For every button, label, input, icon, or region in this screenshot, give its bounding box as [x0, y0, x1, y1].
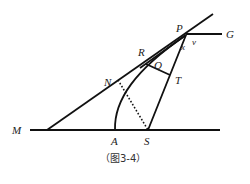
geometry-diagram: M A S N R Q T P G v x （图3-4） — [0, 0, 250, 184]
label-s: S — [144, 135, 150, 147]
figure-caption: （图3-4） — [100, 153, 146, 164]
tangent-line — [47, 14, 213, 130]
label-m: M — [11, 124, 22, 136]
label-g: G — [226, 28, 234, 40]
label-x: x — [180, 42, 185, 52]
label-q: Q — [154, 59, 162, 71]
label-p: P — [175, 22, 183, 34]
dotted-ns — [118, 80, 148, 130]
label-a: A — [110, 135, 118, 147]
label-n: N — [103, 76, 112, 88]
label-v: v — [192, 37, 196, 47]
label-t: T — [175, 74, 182, 86]
label-r: R — [137, 46, 145, 58]
